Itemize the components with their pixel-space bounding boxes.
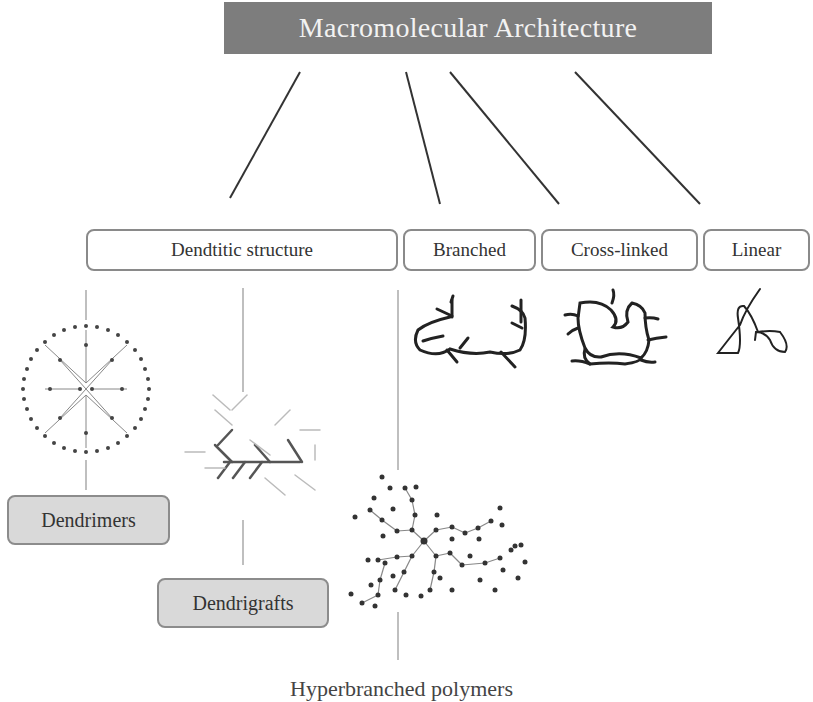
dendrigraft-illustration bbox=[185, 395, 320, 495]
linear-illustration bbox=[718, 289, 787, 353]
category-linear: Linear bbox=[703, 229, 810, 271]
category-branched: Branched bbox=[403, 229, 536, 271]
branched-illustration bbox=[415, 296, 525, 367]
category-cross-linked: Cross-linked bbox=[541, 229, 698, 271]
hyperbranched-illustration bbox=[349, 475, 528, 609]
cross-linked-illustration bbox=[565, 290, 666, 364]
subtype-hyperbranched-label: Hyperbranched polymers bbox=[290, 676, 513, 702]
category-dendritic-structure: Dendtitic structure bbox=[86, 229, 398, 271]
subtype-dendrigrafts: Dendrigrafts bbox=[157, 578, 329, 628]
subtype-dendrimers: Dendrimers bbox=[7, 495, 170, 545]
dendrimer-illustration bbox=[21, 324, 151, 454]
